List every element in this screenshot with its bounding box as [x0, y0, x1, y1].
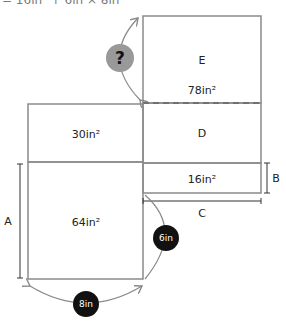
question-mark-icon: ?	[115, 48, 125, 68]
label-30-area: 30in²	[72, 128, 100, 141]
dimension-c-label: C	[198, 207, 206, 220]
clipped-header-text: = 16in² + 6in × 8in	[2, 0, 119, 7]
badge-6in-label: 6in	[159, 233, 173, 243]
label-16-area: 16in²	[188, 173, 216, 186]
label-e-area: 78in²	[188, 84, 216, 97]
area-diagram: = 16in² + 6in × 8in E 78in² D 30in² 64in…	[0, 0, 286, 324]
label-64-area: 64in²	[72, 216, 100, 229]
label-d: D	[198, 127, 206, 140]
badge-8in-label: 8in	[79, 299, 93, 309]
label-e: E	[199, 54, 206, 67]
dimension-a-label: A	[4, 215, 12, 228]
dimension-b-label: B	[272, 172, 280, 185]
